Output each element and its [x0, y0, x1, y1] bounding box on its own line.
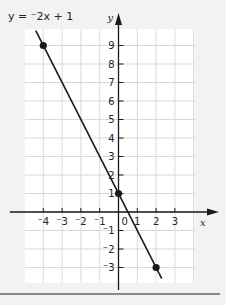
bottom-divider: [0, 293, 220, 295]
y-tick-label: 4: [108, 133, 114, 144]
y-axis-label: y: [107, 12, 114, 23]
coordinate-plane: ⁻4⁻3⁻2⁻1123987654321⁻1⁻2⁻30 y = ⁻2x + 1 …: [0, 0, 226, 305]
x-axis-label: x: [200, 217, 206, 228]
y-tick-label: 9: [108, 40, 114, 51]
y-tick-label: ⁻2: [103, 244, 115, 255]
y-tick-label: 6: [108, 96, 114, 107]
y-tick-label: 8: [108, 59, 114, 70]
y-tick-label: 3: [108, 151, 114, 162]
x-tick-label: ⁻3: [56, 216, 68, 227]
x-tick-label: 2: [153, 216, 159, 227]
data-point: [115, 190, 122, 197]
chart-title: y = ⁻2x + 1: [8, 10, 73, 23]
y-tick-label: 1: [108, 188, 114, 199]
y-tick-label: ⁻1: [103, 225, 115, 236]
data-point: [153, 264, 160, 271]
x-tick-label: ⁻2: [75, 216, 87, 227]
y-tick-label: ⁻3: [103, 262, 115, 273]
y-tick-label: 7: [108, 77, 114, 88]
x-tick-label: 3: [172, 216, 178, 227]
data-point: [40, 42, 47, 49]
y-tick-label: 5: [108, 114, 114, 125]
x-tick-label: ⁻4: [37, 216, 49, 227]
y-axis-arrow-icon: [115, 13, 122, 25]
origin-label: 0: [122, 216, 128, 227]
x-axis-arrow-icon: [207, 209, 219, 216]
